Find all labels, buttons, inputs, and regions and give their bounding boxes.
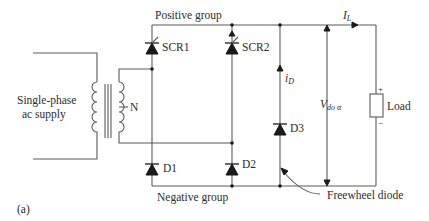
load-plus-sign: + — [378, 84, 383, 94]
load-label: Load — [387, 100, 411, 112]
d1-icon — [145, 164, 159, 175]
d1-label: D1 — [163, 162, 177, 174]
d2-label: D2 — [242, 158, 256, 170]
load-resistor-icon — [370, 94, 383, 117]
arrowhead-up-icon — [324, 25, 330, 31]
pointer-arrowhead-icon — [281, 168, 288, 175]
ac-supply-leads — [33, 53, 97, 159]
scr1-label: SCR1 — [162, 41, 190, 53]
d3-icon — [273, 124, 287, 135]
transformer-icon — [92, 82, 128, 140]
scr2-current-arrow-icon — [229, 31, 235, 36]
panel-label: (a) — [17, 203, 30, 216]
load-current-arrow-icon — [352, 22, 358, 28]
source-label-line1: Single-phase — [17, 94, 76, 107]
diode-current-arrow-icon — [277, 65, 283, 71]
secondary-bottom-lead — [119, 140, 232, 143]
negative-group-label: Negative group — [157, 191, 228, 204]
half-controlled-bridge-rectifier-diagram: N Single-phase ac supply Positive group … — [0, 0, 429, 221]
load-minus-sign: − — [378, 118, 383, 128]
source-label-line2: ac supply — [22, 108, 66, 121]
output-voltage-label: Vdo α — [320, 98, 342, 112]
arrowhead-down-icon — [324, 180, 330, 186]
center-tap-label: N — [130, 101, 139, 113]
freewheel-diode-label: Freewheel diode — [327, 189, 403, 201]
freewheel-pointer — [283, 171, 320, 194]
scr2-label: SCR2 — [242, 41, 270, 53]
diode-current-label: iD — [285, 72, 294, 86]
secondary-top-lead — [119, 69, 152, 82]
positive-group-label: Positive group — [155, 9, 222, 22]
d3-label: D3 — [290, 122, 304, 134]
load-current-label: IL — [342, 9, 352, 23]
d2-icon — [225, 164, 239, 175]
